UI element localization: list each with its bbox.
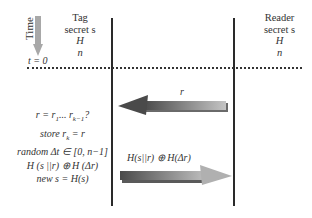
arrow-right-icon [120, 165, 232, 187]
tag-step-1: r = r1... rk−1? [10, 108, 115, 127]
message-r-arrow [118, 95, 230, 121]
t0-label: t = 0 [28, 55, 48, 66]
tag-n: n [55, 47, 105, 59]
tag-step-3: random Δt ∈ [0, n−1] [10, 145, 115, 159]
time-label: Time [23, 17, 35, 40]
reader-secret: secret s [252, 24, 307, 36]
tag-step-4: H (s ||r) ⊕ H (Δr) [10, 159, 115, 173]
tag-steps: r = r1... rk−1? store rk = r random Δt ∈… [10, 108, 115, 186]
tag-step-2: store rk = r [10, 127, 115, 146]
tag-hash: H [55, 35, 105, 47]
reader-lifeline [233, 18, 235, 206]
reader-hash: H [252, 35, 307, 47]
tag-header: Tag secret s H n [55, 12, 105, 58]
reader-title: Reader [252, 12, 307, 24]
message-hash-arrow [120, 165, 232, 191]
time-zero-line [27, 67, 302, 69]
message-hash-label: H(s||r) ⊕ H(Δr) [127, 152, 191, 163]
reader-header: Reader secret s H n [252, 12, 307, 58]
tag-step-5: new s = H(s) [10, 172, 115, 186]
tag-title: Tag [55, 12, 105, 24]
reader-n: n [252, 47, 307, 59]
tag-secret: secret s [55, 24, 105, 36]
arrow-left-icon [118, 95, 230, 117]
